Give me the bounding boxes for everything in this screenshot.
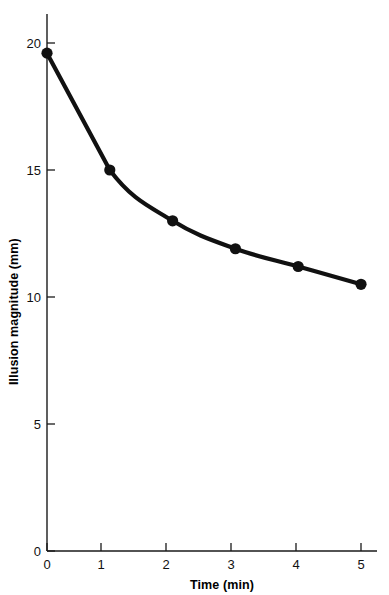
- x-tick-label-3: 3: [227, 557, 234, 572]
- data-series: [41, 48, 366, 290]
- series-line: [47, 53, 361, 284]
- y-axis-title: Illusion magnitude (mm): [7, 238, 21, 385]
- x-tick-label-5: 5: [357, 557, 364, 572]
- x-tick-label-1: 1: [97, 557, 104, 572]
- y-tick-label-20: 20: [27, 36, 41, 51]
- y-tick-label-10: 10: [27, 290, 41, 305]
- y-tick-label-15: 15: [27, 163, 41, 178]
- data-point: [167, 215, 178, 226]
- y-tick-label-0: 0: [34, 544, 41, 559]
- x-tick-label-0: 0: [43, 557, 50, 572]
- data-point: [104, 164, 115, 175]
- data-point: [230, 243, 241, 254]
- line-chart: 0 5 10 15 20 0 1 2 3 4 5 Time (min): [0, 0, 389, 595]
- data-point: [355, 279, 366, 290]
- data-point: [293, 261, 304, 272]
- x-tick-label-4: 4: [292, 557, 299, 572]
- data-point: [41, 48, 52, 59]
- x-tick-label-2: 2: [162, 557, 169, 572]
- y-axis-ticks: 0 5 10 15 20: [27, 36, 55, 559]
- x-axis-ticks: 0 1 2 3 4 5: [43, 543, 364, 572]
- x-axis-title: Time (min): [190, 578, 254, 592]
- chart-container: 0 5 10 15 20 0 1 2 3 4 5 Time (min): [0, 0, 389, 595]
- series-markers: [41, 48, 366, 290]
- y-tick-label-5: 5: [34, 417, 41, 432]
